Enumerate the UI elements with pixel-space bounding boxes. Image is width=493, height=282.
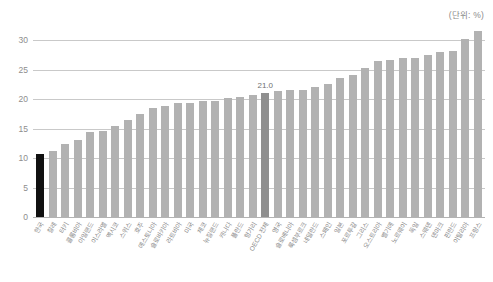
bar[interactable] [349, 75, 357, 217]
category-label-slot: 한국 [34, 219, 47, 279]
bar[interactable] [249, 95, 257, 217]
bar[interactable] [124, 120, 132, 217]
category-label-slot: 그리스 [359, 219, 372, 279]
bar[interactable] [86, 132, 94, 217]
bar[interactable] [424, 55, 432, 217]
bar[interactable] [299, 90, 307, 217]
plot-area: 051015202530 21.0 [33, 40, 485, 217]
y-axis-tick-label: 5 [23, 183, 28, 193]
y-axis-tick-label: 0 [23, 212, 28, 222]
bar[interactable] [399, 58, 407, 217]
bar-slot [397, 40, 410, 217]
bar-slot [409, 40, 422, 217]
y-axis-tick-label: 25 [19, 65, 28, 75]
category-label-slot: 미국 [184, 219, 197, 279]
bar-slot [84, 40, 97, 217]
bar-slot [472, 40, 485, 217]
bars-group: 21.0 [33, 40, 485, 217]
bar-slot [97, 40, 110, 217]
bar[interactable] [436, 52, 444, 217]
bar[interactable] [36, 154, 44, 217]
bar[interactable] [449, 51, 457, 217]
category-label-slot: 콜롬비아 [72, 219, 85, 279]
bar[interactable] [324, 84, 332, 217]
category-label-slot: 호주 [134, 219, 147, 279]
bar-slot [297, 40, 310, 217]
bar-slot [322, 40, 335, 217]
bar[interactable] [274, 91, 282, 217]
category-label-slot: 라트비아 [172, 219, 185, 279]
y-axis-tick-label: 30 [19, 35, 28, 45]
category-label: 한국 [34, 221, 46, 235]
category-label-slot: 일본 [334, 219, 347, 279]
bar[interactable]: 21.0 [261, 93, 269, 217]
bar[interactable] [186, 103, 194, 217]
bar-slot [272, 40, 285, 217]
bar[interactable] [386, 60, 394, 217]
bar[interactable] [336, 78, 344, 217]
bar[interactable] [311, 87, 319, 217]
bar[interactable] [374, 61, 382, 217]
bar[interactable] [361, 68, 369, 217]
bar[interactable] [236, 97, 244, 217]
category-label-slot: OECD 전체 [259, 219, 272, 279]
category-axis-labels: 한국칠레터키콜롬비아아일랜드이스라엘멕시코스위스호주에스토니아슬로바키아라트비아… [33, 219, 485, 279]
bar-slot [122, 40, 135, 217]
bar-slot [209, 40, 222, 217]
category-label-slot: 노르웨이 [397, 219, 410, 279]
category-label-slot: 슬로베니아 [284, 219, 297, 279]
bar[interactable] [149, 108, 157, 217]
category-label: 스페인 [319, 221, 334, 240]
category-label-slot: 이탈리아 [459, 219, 472, 279]
bar-slot [284, 40, 297, 217]
category-label-slot: 스웨덴 [422, 219, 435, 279]
category-label: 덴마크 [431, 221, 446, 240]
bar-slot [359, 40, 372, 217]
bar-slot [47, 40, 60, 217]
category-label: 멕시코 [106, 221, 121, 240]
category-label-slot: 캐나다 [222, 219, 235, 279]
bar-slot [72, 40, 85, 217]
bar[interactable] [411, 58, 419, 217]
bar-slot [147, 40, 160, 217]
bar[interactable] [161, 106, 169, 218]
category-label-slot: 포르투갈 [347, 219, 360, 279]
y-axis-tick-label: 15 [19, 124, 28, 134]
category-label-slot: 핀란드 [447, 219, 460, 279]
bar[interactable] [49, 151, 57, 217]
category-label-slot: 이스라엘 [97, 219, 110, 279]
bar-slot [372, 40, 385, 217]
category-label-slot: 덴마크 [434, 219, 447, 279]
bar-slot [459, 40, 472, 217]
bar[interactable] [461, 39, 469, 217]
bar[interactable] [111, 126, 119, 217]
bar-slot [222, 40, 235, 217]
bar-slot [34, 40, 47, 217]
bar-slot [184, 40, 197, 217]
category-label-slot: 프랑스 [472, 219, 485, 279]
category-label-slot: 스위스 [122, 219, 135, 279]
bar[interactable] [174, 103, 182, 217]
bar[interactable] [211, 101, 219, 217]
bar-slot [422, 40, 435, 217]
category-label-slot: 룩셈부르크 [297, 219, 310, 279]
bar-slot [434, 40, 447, 217]
bar[interactable] [61, 144, 69, 217]
bar[interactable] [286, 90, 294, 217]
bar-slot [159, 40, 172, 217]
bar-slot [334, 40, 347, 217]
bar[interactable] [74, 140, 82, 217]
bar[interactable] [224, 98, 232, 217]
category-label-slot: 아일랜드 [84, 219, 97, 279]
bar[interactable] [99, 131, 107, 217]
bar-slot [384, 40, 397, 217]
bar-slot [134, 40, 147, 217]
bar-slot [197, 40, 210, 217]
category-label-slot: 멕시코 [109, 219, 122, 279]
bar[interactable] [474, 31, 482, 217]
bar-slot [234, 40, 247, 217]
bar[interactable] [136, 114, 144, 217]
bar-slot [447, 40, 460, 217]
bar-slot [109, 40, 122, 217]
bar[interactable] [199, 101, 207, 217]
